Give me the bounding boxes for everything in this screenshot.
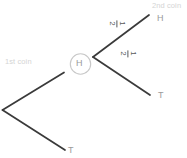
tree-branches-svg (0, 0, 187, 158)
fraction-denominator: 2 (108, 16, 116, 30)
fraction-denominator: 2 (119, 46, 127, 60)
probability-label-second-coin-heads: 1 2 (108, 16, 127, 30)
stage-label-first-coin: 1st coin (5, 58, 32, 66)
probability-tree-diagram: 1st coin 2nd coin H H T T 1 2 1 2 (0, 0, 187, 158)
leaf-label-t: T (68, 146, 74, 155)
branch-first-coin-heads (3, 73, 65, 111)
stage-label-second-coin: 2nd coin (152, 2, 181, 10)
probability-label-second-coin-tails: 1 2 (119, 46, 138, 60)
fraction-numerator: 1 (129, 46, 137, 60)
leaf-label-ht: T (158, 91, 164, 100)
branch-second-coin-tails (93, 57, 150, 95)
heads-node-label: H (76, 59, 83, 68)
leaf-label-hh: H (157, 14, 164, 23)
fraction-numerator: 1 (118, 16, 126, 30)
branch-first-coin-tails (3, 110, 66, 150)
